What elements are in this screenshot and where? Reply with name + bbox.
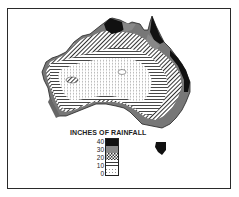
legend-swatches — [105, 138, 119, 176]
legend-tick-40: 40 — [97, 139, 104, 146]
legend-swatch-0-10 — [105, 168, 119, 176]
legend-tick-30: 30 — [97, 147, 104, 154]
legend-swatch-40-plus — [105, 138, 119, 146]
legend-swatch-10-20 — [105, 160, 119, 168]
legend-tick-20: 20 — [97, 155, 104, 162]
legend-tick-0: 0 — [100, 171, 104, 178]
lake — [66, 77, 78, 83]
legend-tick-10: 10 — [97, 163, 104, 170]
australia-rainfall-map — [0, 0, 239, 197]
legend-title: INCHES OF RAINFALL — [70, 129, 146, 136]
tasmania — [155, 142, 166, 155]
legend-swatch-30-40 — [105, 146, 119, 153]
legend-swatch-20-30 — [105, 153, 119, 160]
lake — [118, 70, 126, 75]
